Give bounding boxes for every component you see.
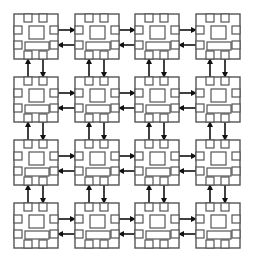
port-north-2 <box>100 203 108 211</box>
chip-node <box>135 203 179 248</box>
chip-node <box>14 77 58 122</box>
port-east-1 <box>50 89 58 97</box>
port-east-2 <box>171 41 179 49</box>
port-west-1 <box>75 89 83 97</box>
port-north-2 <box>39 203 47 211</box>
core-block <box>29 152 44 165</box>
port-north-2 <box>39 14 47 22</box>
router-block <box>207 42 231 50</box>
port-south-1 <box>85 114 93 122</box>
port-south-2 <box>160 51 168 59</box>
port-east-1 <box>232 215 240 223</box>
router-block <box>25 42 49 50</box>
chip-node <box>196 203 240 248</box>
port-east-2 <box>111 41 119 49</box>
core-block <box>29 26 44 39</box>
port-south-2 <box>100 177 108 185</box>
router-block <box>146 105 170 113</box>
port-north-2 <box>221 77 229 85</box>
port-west-1 <box>135 26 143 34</box>
core-block <box>29 215 44 228</box>
port-east-1 <box>171 89 179 97</box>
chip-node <box>75 203 119 248</box>
port-south-1 <box>145 240 153 248</box>
port-south-2 <box>160 114 168 122</box>
port-west-1 <box>14 215 22 223</box>
port-south-2 <box>221 51 229 59</box>
port-south-1 <box>85 51 93 59</box>
port-west-2 <box>135 230 143 238</box>
port-south-1 <box>24 177 32 185</box>
port-west-1 <box>14 89 22 97</box>
port-east-2 <box>50 41 58 49</box>
core-block <box>150 89 165 102</box>
port-east-2 <box>171 230 179 238</box>
router-block <box>146 42 170 50</box>
port-south-1 <box>85 240 93 248</box>
core-block <box>90 89 105 102</box>
port-east-1 <box>171 26 179 34</box>
port-west-1 <box>75 152 83 160</box>
port-west-2 <box>135 104 143 112</box>
port-south-2 <box>100 240 108 248</box>
port-south-1 <box>24 240 32 248</box>
port-south-1 <box>206 240 214 248</box>
port-south-1 <box>206 51 214 59</box>
port-north-2 <box>160 203 168 211</box>
chip-node <box>14 14 58 59</box>
port-west-2 <box>14 167 22 175</box>
router-block <box>86 231 110 239</box>
port-north-1 <box>206 140 214 148</box>
router-block <box>207 231 231 239</box>
port-east-1 <box>111 215 119 223</box>
port-east-1 <box>232 89 240 97</box>
port-east-2 <box>171 104 179 112</box>
chip-node <box>75 14 119 59</box>
port-south-2 <box>39 177 47 185</box>
port-south-1 <box>145 51 153 59</box>
router-block <box>207 168 231 176</box>
port-east-2 <box>171 167 179 175</box>
core-block <box>90 26 105 39</box>
port-east-2 <box>232 167 240 175</box>
port-north-1 <box>85 77 93 85</box>
port-east-1 <box>50 215 58 223</box>
port-south-2 <box>160 177 168 185</box>
chip-node <box>196 14 240 59</box>
port-west-1 <box>196 89 204 97</box>
port-north-1 <box>206 14 214 22</box>
port-west-1 <box>135 215 143 223</box>
port-west-2 <box>75 41 83 49</box>
port-north-1 <box>85 140 93 148</box>
port-east-1 <box>111 26 119 34</box>
core-block <box>150 215 165 228</box>
port-north-2 <box>221 14 229 22</box>
chip-node <box>14 203 58 248</box>
router-block <box>25 168 49 176</box>
core-block <box>211 89 226 102</box>
port-south-1 <box>206 177 214 185</box>
port-west-1 <box>196 215 204 223</box>
port-east-2 <box>50 167 58 175</box>
router-block <box>207 105 231 113</box>
port-west-1 <box>196 26 204 34</box>
port-west-1 <box>14 26 22 34</box>
port-east-2 <box>232 41 240 49</box>
port-north-2 <box>100 14 108 22</box>
core-block <box>211 215 226 228</box>
router-block <box>146 231 170 239</box>
port-west-2 <box>196 167 204 175</box>
port-south-2 <box>221 114 229 122</box>
port-east-2 <box>111 167 119 175</box>
port-east-2 <box>50 230 58 238</box>
port-south-2 <box>221 240 229 248</box>
port-east-2 <box>111 230 119 238</box>
port-south-2 <box>39 51 47 59</box>
port-east-1 <box>232 152 240 160</box>
port-west-2 <box>196 41 204 49</box>
port-west-2 <box>196 104 204 112</box>
port-west-1 <box>196 152 204 160</box>
port-west-2 <box>14 230 22 238</box>
port-north-2 <box>221 203 229 211</box>
port-north-2 <box>100 77 108 85</box>
